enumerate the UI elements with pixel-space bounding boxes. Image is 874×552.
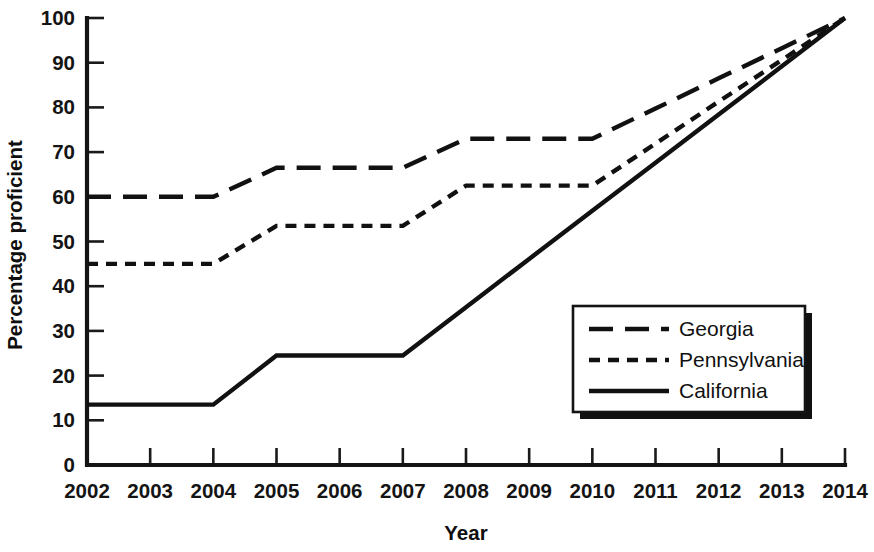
y-tick-label: 0	[64, 453, 75, 476]
y-tick-label: 20	[52, 364, 75, 387]
chart-background	[0, 0, 874, 552]
x-tick-label: 2013	[759, 479, 805, 502]
x-tick-label: 2007	[380, 479, 426, 502]
line-chart: 0102030405060708090100 20022003200420052…	[0, 0, 874, 552]
y-tick-label: 50	[52, 230, 75, 253]
y-axis-title: Percentage proficient	[3, 140, 26, 350]
x-tick-label: 2003	[127, 479, 173, 502]
y-tick-label: 100	[41, 6, 75, 29]
y-tick-label: 70	[52, 140, 75, 163]
y-tick-label: 90	[52, 51, 75, 74]
x-tick-label: 2009	[506, 479, 552, 502]
x-tick-label: 2006	[317, 479, 363, 502]
x-tick-label: 2005	[254, 479, 300, 502]
chart-canvas: 0102030405060708090100 20022003200420052…	[0, 0, 874, 552]
legend-label-pennsylvania: Pennsylvania	[679, 348, 804, 371]
x-axis-title: Year	[444, 521, 487, 544]
x-tick-label: 2012	[696, 479, 742, 502]
x-tick-label: 2010	[570, 479, 616, 502]
y-tick-label: 40	[52, 274, 75, 297]
y-tick-label: 30	[52, 319, 75, 342]
y-tick-label: 10	[52, 408, 75, 431]
x-tick-label: 2004	[191, 479, 237, 502]
legend-label-georgia: Georgia	[679, 317, 754, 340]
x-tick-label: 2011	[633, 479, 677, 502]
chart-legend: GeorgiaPennsylvaniaCalifornia	[573, 306, 812, 419]
y-tick-label: 80	[52, 95, 75, 118]
x-tick-label: 2014	[822, 479, 868, 502]
legend-label-california: California	[679, 379, 768, 402]
x-tick-label: 2002	[64, 479, 110, 502]
y-tick-label: 60	[52, 185, 75, 208]
x-tick-label: 2008	[443, 479, 489, 502]
